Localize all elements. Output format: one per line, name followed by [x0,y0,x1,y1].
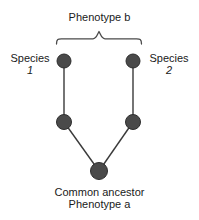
species-2-name: Species [149,52,188,64]
common-ancestor-node [91,163,108,180]
species-1-label: Species 1 [2,52,58,76]
tree-edges [64,61,133,171]
common-ancestor-caption: Common ancestor Phenotype a [0,186,199,210]
phenotype-b-label: Phenotype b [0,11,199,23]
internal-node-left [57,115,72,130]
species-1-number: 1 [2,64,58,76]
diagram-canvas: Phenotype b Species 1 Species 2 Common a… [0,0,199,220]
species-1-node [57,54,71,68]
species-2-label: Species 2 [141,52,197,76]
internal-node-right [126,115,141,130]
phenotype-b-brace [57,32,142,45]
tree-nodes [57,54,141,180]
species-1-name: Species [10,52,49,64]
species-2-node [126,54,140,68]
common-ancestor-label: Common ancestor [55,186,145,198]
species-2-number: 2 [141,64,197,76]
edge-ancestor-left [64,122,99,171]
phenotype-a-label: Phenotype a [0,198,199,210]
